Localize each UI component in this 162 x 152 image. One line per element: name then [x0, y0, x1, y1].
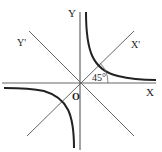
y-prime-label: Y'	[17, 37, 26, 48]
x-prime-label: X'	[131, 39, 140, 50]
hyperbola-diagram: Y X Y' X' O 45°	[0, 0, 162, 152]
hyperbola-branch-lower-left	[4, 88, 74, 148]
origin-label: O	[72, 91, 80, 102]
y-axis-label: Y	[68, 7, 76, 19]
angle-label: 45°	[92, 72, 106, 83]
hyperbola-branch-upper-right	[86, 12, 156, 80]
diagram-canvas: Y X Y' X' O 45°	[0, 0, 162, 152]
x-axis-label: X	[146, 86, 154, 98]
